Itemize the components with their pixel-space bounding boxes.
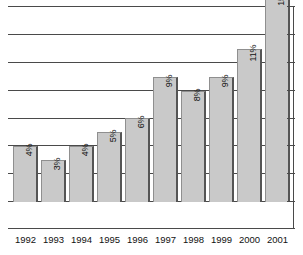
- bar-value-label: 9%: [221, 74, 230, 87]
- bar-value-label: 4%: [81, 144, 90, 157]
- bar-1994: 4%: [69, 146, 94, 202]
- axis-tick: [287, 145, 294, 146]
- bar-value-label: 4%: [25, 144, 34, 157]
- category-label-2001: 2001: [263, 233, 292, 247]
- category-label-1996: 1996: [123, 233, 152, 247]
- bar-1999: 9%: [209, 77, 234, 202]
- bar-1993: 3%: [41, 160, 66, 202]
- axis-tick: [287, 90, 294, 91]
- bar-value-label: 15%: [277, 0, 286, 6]
- axis-tick: [287, 173, 294, 174]
- category-label-2000: 2000: [235, 233, 264, 247]
- axis-tick: [287, 201, 294, 202]
- category-label-1999: 1999: [207, 233, 236, 247]
- bar-2001: 15%: [265, 0, 290, 202]
- bar-value-label: 6%: [137, 116, 146, 129]
- bar-1995: 5%: [97, 132, 122, 202]
- category-label-1997: 1997: [151, 233, 180, 247]
- bars-layer: 4% 3% 4% 5% 6% 9% 8% 9% 11% 15%: [0, 0, 303, 229]
- bar-value-label: 8%: [193, 88, 202, 101]
- axis-tick: [287, 6, 294, 7]
- category-axis-line: [8, 228, 295, 229]
- category-label-1994: 1994: [67, 233, 96, 247]
- category-label-1992: 1992: [11, 233, 40, 247]
- bar-2000: 11%: [237, 49, 262, 202]
- bar-1998: 8%: [181, 91, 206, 203]
- bar-1992: 4%: [13, 146, 38, 202]
- axis-tick: [287, 118, 294, 119]
- axis-tick: [287, 62, 294, 63]
- bar-1996: 6%: [125, 118, 150, 202]
- category-label-1995: 1995: [95, 233, 124, 247]
- bar-value-label: 9%: [165, 74, 174, 87]
- bar-value-label: 5%: [109, 130, 118, 143]
- category-label-1993: 1993: [39, 233, 68, 247]
- axis-tick: [287, 228, 294, 229]
- bar-value-label: 11%: [249, 44, 258, 61]
- bar-1997: 9%: [153, 77, 178, 202]
- category-label-1998: 1998: [179, 233, 208, 247]
- bar-value-label: 3%: [53, 158, 62, 171]
- bar-chart: 4% 3% 4% 5% 6% 9% 8% 9% 11% 15%: [0, 0, 303, 255]
- axis-tick: [287, 34, 294, 35]
- category-labels: 1992 1993 1994 1995 1996 1997 1998 1999 …: [0, 233, 303, 251]
